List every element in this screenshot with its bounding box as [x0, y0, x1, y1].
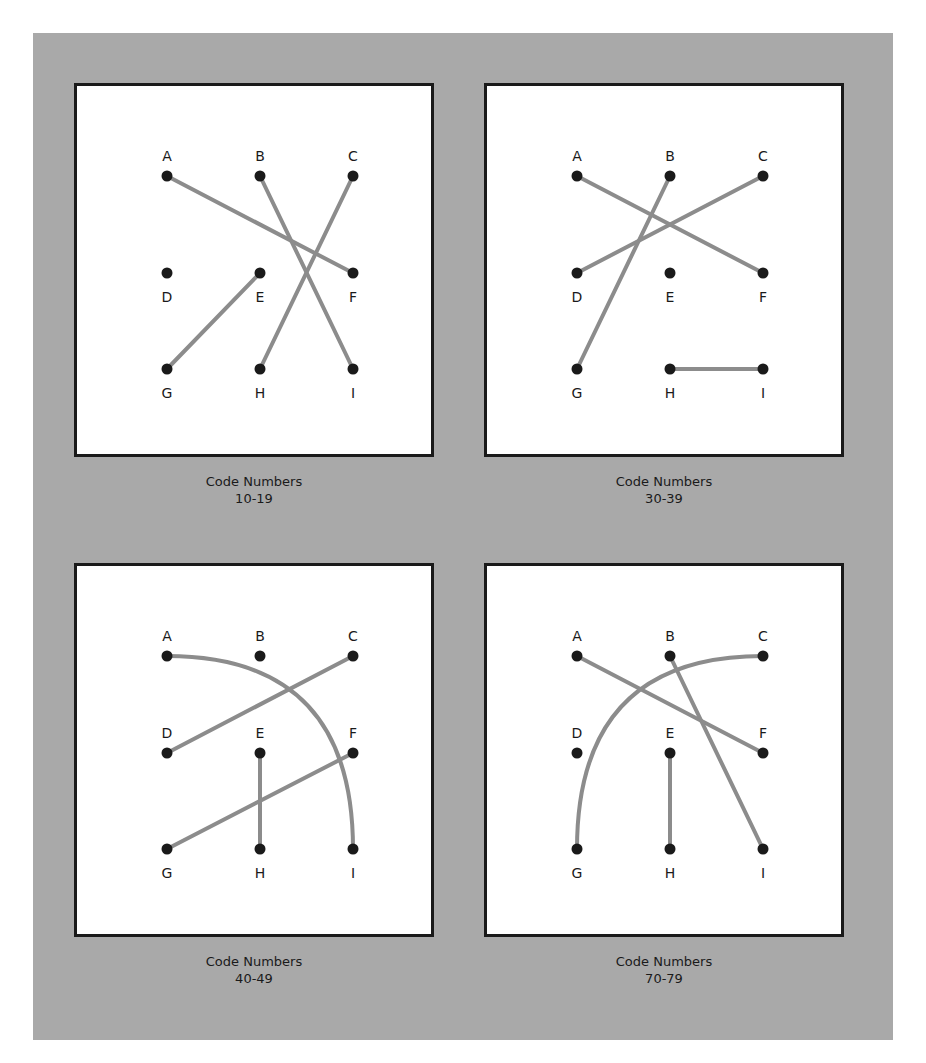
point-i	[348, 844, 359, 855]
point-a	[572, 651, 583, 662]
caption-code-40-49: Code Numbers 40-49	[74, 953, 434, 987]
point-e	[255, 748, 266, 759]
connector-a-f	[167, 176, 353, 273]
point-label-d: D	[162, 289, 173, 305]
point-label-d: D	[572, 725, 583, 741]
point-label-f: F	[349, 725, 357, 741]
point-label-i: I	[761, 865, 765, 881]
point-label-b: B	[255, 148, 265, 164]
point-label-e: E	[666, 725, 675, 741]
point-i	[758, 844, 769, 855]
point-label-h: H	[665, 385, 676, 401]
point-h	[665, 844, 676, 855]
point-label-h: H	[255, 865, 266, 881]
point-label-g: G	[162, 385, 173, 401]
point-d	[572, 268, 583, 279]
caption-range: 10-19	[74, 490, 434, 507]
caption-range: 30-39	[484, 490, 844, 507]
caption-title: Code Numbers	[74, 953, 434, 970]
panel-code-30-39: ABCDEFGHI	[484, 83, 844, 457]
point-label-d: D	[162, 725, 173, 741]
point-f	[758, 748, 769, 759]
connection-diagram: ABCDEFGHI	[487, 566, 841, 934]
point-i	[348, 364, 359, 375]
point-label-f: F	[759, 725, 767, 741]
point-g	[162, 844, 173, 855]
point-f	[758, 268, 769, 279]
point-g	[162, 364, 173, 375]
point-g	[572, 844, 583, 855]
point-label-i: I	[761, 385, 765, 401]
point-label-g: G	[572, 865, 583, 881]
point-label-d: D	[572, 289, 583, 305]
point-b	[665, 651, 676, 662]
point-c	[758, 651, 769, 662]
point-label-f: F	[759, 289, 767, 305]
caption-title: Code Numbers	[484, 473, 844, 490]
point-h	[255, 364, 266, 375]
point-label-g: G	[572, 385, 583, 401]
point-f	[348, 268, 359, 279]
point-c	[348, 651, 359, 662]
point-label-a: A	[572, 628, 582, 644]
connection-diagram: ABCDEFGHI	[77, 566, 431, 934]
caption-code-30-39: Code Numbers 30-39	[484, 473, 844, 507]
point-b	[255, 171, 266, 182]
point-b	[665, 171, 676, 182]
point-label-a: A	[572, 148, 582, 164]
point-i	[758, 364, 769, 375]
panel-code-40-49: ABCDEFGHI	[74, 563, 434, 937]
point-a	[162, 651, 173, 662]
caption-code-10-19: Code Numbers 10-19	[74, 473, 434, 507]
caption-code-70-79: Code Numbers 70-79	[484, 953, 844, 987]
point-h	[255, 844, 266, 855]
point-e	[665, 748, 676, 759]
point-h	[665, 364, 676, 375]
point-d	[162, 268, 173, 279]
point-label-c: C	[758, 628, 768, 644]
point-label-f: F	[349, 289, 357, 305]
point-f	[348, 748, 359, 759]
point-label-e: E	[666, 289, 675, 305]
caption-range: 40-49	[74, 970, 434, 987]
caption-range: 70-79	[484, 970, 844, 987]
point-a	[162, 171, 173, 182]
point-e	[665, 268, 676, 279]
connector-e-g	[167, 273, 260, 369]
panel-code-10-19: ABCDEFGHI	[74, 83, 434, 457]
point-label-b: B	[255, 628, 265, 644]
point-label-i: I	[351, 385, 355, 401]
point-c	[348, 171, 359, 182]
point-e	[255, 268, 266, 279]
point-label-a: A	[162, 148, 172, 164]
connection-diagram: ABCDEFGHI	[77, 86, 431, 454]
point-a	[572, 171, 583, 182]
point-c	[758, 171, 769, 182]
point-label-c: C	[348, 628, 358, 644]
point-d	[572, 748, 583, 759]
point-label-i: I	[351, 865, 355, 881]
point-label-c: C	[758, 148, 768, 164]
point-label-g: G	[162, 865, 173, 881]
caption-title: Code Numbers	[74, 473, 434, 490]
point-label-h: H	[255, 385, 266, 401]
point-label-a: A	[162, 628, 172, 644]
caption-title: Code Numbers	[484, 953, 844, 970]
point-b	[255, 651, 266, 662]
point-label-b: B	[665, 628, 675, 644]
point-g	[572, 364, 583, 375]
point-d	[162, 748, 173, 759]
connection-diagram: ABCDEFGHI	[487, 86, 841, 454]
point-label-h: H	[665, 865, 676, 881]
point-label-e: E	[256, 725, 265, 741]
connector-b-g	[577, 176, 670, 369]
connector-b-i	[670, 656, 763, 849]
point-label-c: C	[348, 148, 358, 164]
panel-code-70-79: ABCDEFGHI	[484, 563, 844, 937]
point-label-b: B	[665, 148, 675, 164]
point-label-e: E	[256, 289, 265, 305]
